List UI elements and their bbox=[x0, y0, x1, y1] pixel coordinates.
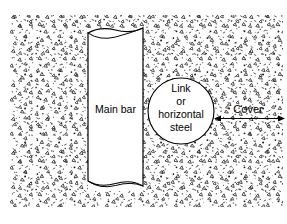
cover-label: Cover bbox=[233, 103, 263, 115]
diagram-canvas: Link or horizontal steel Main bar Cover bbox=[0, 0, 287, 224]
link-or-horizontal-steel: Link or horizontal steel bbox=[148, 78, 214, 144]
link-steel-label-line-3: horizontal bbox=[158, 108, 204, 120]
main-bar-label: Main bar bbox=[95, 103, 136, 115]
concrete-section-figure: Link or horizontal steel Main bar Cover bbox=[0, 0, 287, 224]
link-steel-label-line-2: or bbox=[176, 95, 186, 107]
main-bar: Main bar bbox=[88, 28, 143, 187]
link-steel-label-line-1: Link bbox=[171, 82, 191, 94]
link-steel-label-line-4: steel bbox=[170, 121, 192, 133]
